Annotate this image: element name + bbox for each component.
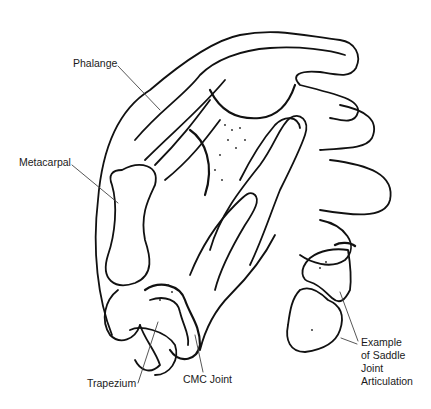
- saddle-bone-bottom: [287, 288, 342, 352]
- index-metacarpal: [106, 165, 156, 285]
- label-saddle-2: of Saddle: [361, 349, 405, 362]
- index-finger: [135, 47, 345, 140]
- label-phalange: Phalange: [73, 57, 117, 70]
- label-saddle-4: Articulation: [361, 375, 413, 388]
- thumb-outline: [210, 116, 306, 265]
- label-saddle-1: Example: [361, 336, 402, 349]
- anatomy-diagram: Phalange Metacarpal Trapezium CMC Joint …: [0, 0, 431, 409]
- label-cmc-joint: CMC Joint: [183, 373, 232, 386]
- leader-saddle-bottom: [341, 338, 357, 344]
- hand-outline: [96, 32, 358, 335]
- label-trapezium: Trapezium: [87, 377, 136, 390]
- cmc-joint: [145, 285, 200, 359]
- label-saddle-3: Joint: [361, 362, 383, 375]
- saddle-bone-top: [302, 249, 350, 301]
- label-metacarpal: Metacarpal: [19, 156, 71, 169]
